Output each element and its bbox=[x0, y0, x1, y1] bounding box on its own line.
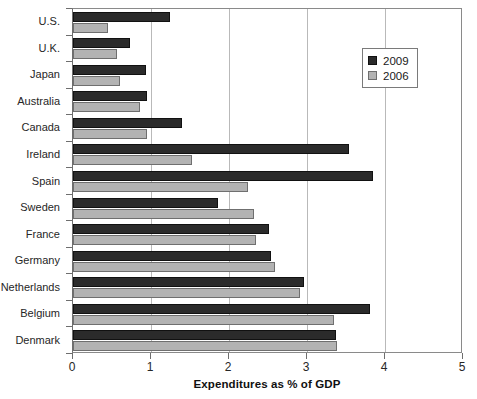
dark-square-icon bbox=[368, 56, 377, 65]
y-axis-tick-label: Spain bbox=[32, 175, 60, 187]
bar-2009-sweden bbox=[73, 198, 218, 208]
y-axis-tick-label: Canada bbox=[21, 121, 60, 133]
y-axis-tick-label: Netherlands bbox=[1, 281, 60, 293]
bar-2006-france bbox=[73, 235, 256, 245]
y-axis-tick bbox=[66, 114, 72, 115]
bar-group bbox=[73, 89, 461, 116]
y-axis-tick-label: Ireland bbox=[26, 148, 60, 160]
x-axis-tick bbox=[150, 353, 151, 359]
bar-2006-ireland bbox=[73, 155, 192, 165]
bar-2006-us bbox=[73, 23, 108, 33]
bar-group bbox=[73, 327, 461, 354]
y-axis-tick bbox=[66, 88, 72, 89]
x-axis-tick-label: 0 bbox=[57, 360, 87, 374]
bar-2009-ireland bbox=[73, 144, 349, 154]
y-axis-tick bbox=[66, 300, 72, 301]
bar-2009-spain bbox=[73, 171, 373, 181]
bar-2006-germany bbox=[73, 262, 275, 272]
bar-2009-france bbox=[73, 224, 269, 234]
y-axis-labels: U.S.U.K.JapanAustraliaCanadaIrelandSpain… bbox=[0, 8, 66, 353]
chart-legend: 2009 2006 bbox=[362, 48, 418, 88]
y-axis-tick bbox=[66, 61, 72, 62]
x-axis-tick bbox=[72, 353, 73, 359]
y-axis-tick-label: U.S. bbox=[39, 15, 60, 27]
bar-2009-japan bbox=[73, 65, 146, 75]
y-axis-tick bbox=[66, 141, 72, 142]
x-axis-title: Expenditures as % of GDP bbox=[72, 378, 462, 390]
y-axis-tick-label: U.K. bbox=[39, 42, 60, 54]
bar-2006-canada bbox=[73, 129, 147, 139]
x-axis-tick-label: 4 bbox=[369, 360, 399, 374]
bar-2009-denmark bbox=[73, 330, 336, 340]
x-axis-tick bbox=[462, 353, 463, 359]
bar-2006-spain bbox=[73, 182, 248, 192]
legend-label: 2009 bbox=[383, 55, 409, 67]
light-square-icon bbox=[368, 71, 377, 80]
x-axis-tick-label: 2 bbox=[213, 360, 243, 374]
y-axis-tick bbox=[66, 35, 72, 36]
y-axis-tick bbox=[66, 8, 72, 9]
x-axis-tick-label: 5 bbox=[447, 360, 477, 374]
bar-2009-netherlands bbox=[73, 277, 304, 287]
x-axis-tick-label: 3 bbox=[291, 360, 321, 374]
bar-2009-germany bbox=[73, 251, 271, 261]
y-axis-tick bbox=[66, 167, 72, 168]
bar-2006-netherlands bbox=[73, 288, 300, 298]
bar-group bbox=[73, 115, 461, 142]
bar-2009-belgium bbox=[73, 304, 370, 314]
legend-label: 2006 bbox=[383, 70, 409, 82]
bar-2006-uk bbox=[73, 49, 117, 59]
x-axis-tick bbox=[384, 353, 385, 359]
y-axis-tick-label: Japan bbox=[30, 68, 60, 80]
x-axis-tick-label: 1 bbox=[135, 360, 165, 374]
bar-2006-australia bbox=[73, 102, 140, 112]
y-axis-tick bbox=[66, 194, 72, 195]
bar-group bbox=[73, 274, 461, 301]
bar-2006-japan bbox=[73, 76, 120, 86]
x-axis-tick bbox=[228, 353, 229, 359]
y-axis-tick bbox=[66, 326, 72, 327]
y-axis-tick bbox=[66, 247, 72, 248]
bar-group bbox=[73, 195, 461, 222]
bar-group bbox=[73, 168, 461, 195]
bar-2009-us bbox=[73, 12, 170, 22]
y-axis-tick-label: Australia bbox=[17, 95, 60, 107]
bar-group bbox=[73, 142, 461, 169]
bar-2009-canada bbox=[73, 118, 182, 128]
y-axis-tick-label: Germany bbox=[15, 254, 60, 266]
bar-2006-sweden bbox=[73, 209, 254, 219]
bar-group bbox=[73, 221, 461, 248]
x-axis-tick bbox=[306, 353, 307, 359]
bar-chart: U.S.U.K.JapanAustraliaCanadaIrelandSpain… bbox=[0, 0, 477, 399]
bar-2009-australia bbox=[73, 91, 147, 101]
y-axis-tick-label: France bbox=[26, 228, 60, 240]
legend-item: 2009 bbox=[368, 53, 409, 68]
legend-item: 2006 bbox=[368, 68, 409, 83]
y-axis-tick-label: Belgium bbox=[20, 307, 60, 319]
y-axis-tick-label: Sweden bbox=[20, 201, 60, 213]
y-axis-tick-label: Denmark bbox=[15, 334, 60, 346]
bar-group bbox=[73, 301, 461, 328]
bar-2006-denmark bbox=[73, 341, 337, 351]
bar-group bbox=[73, 248, 461, 275]
bar-group bbox=[73, 9, 461, 36]
bar-2006-belgium bbox=[73, 315, 334, 325]
y-axis-tick bbox=[66, 220, 72, 221]
y-axis-tick bbox=[66, 273, 72, 274]
bar-2009-uk bbox=[73, 38, 130, 48]
